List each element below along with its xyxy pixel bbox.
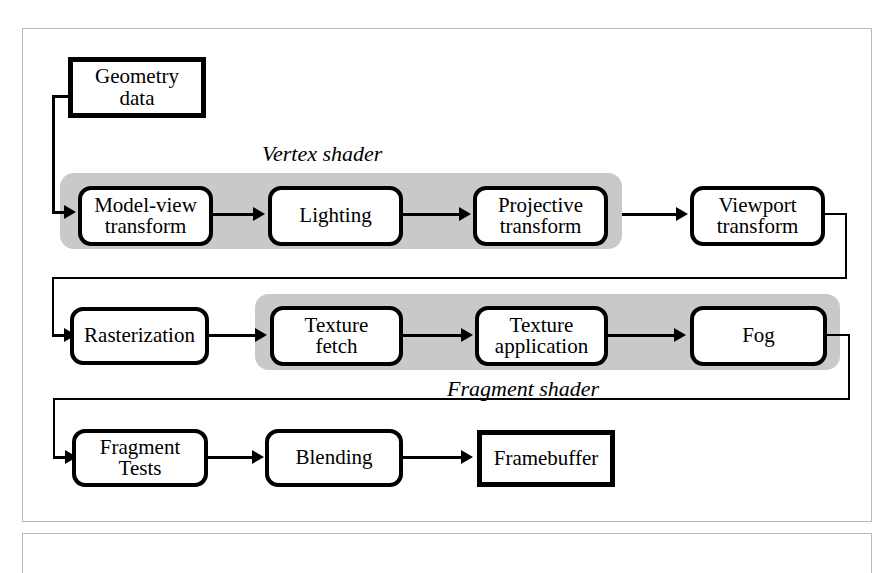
node-lighting[interactable]: Lighting <box>268 186 403 246</box>
node-viewport-transform[interactable]: Viewport transform <box>690 186 825 246</box>
node-projective-transform-line1: Projective <box>498 193 583 217</box>
connector-viewport-to-raster-h2 <box>52 277 847 279</box>
node-geometry-data[interactable]: Geometry data <box>68 57 206 118</box>
node-texture-fetch-line2: fetch <box>316 334 358 358</box>
node-framebuffer-label: Framebuffer <box>491 448 602 469</box>
connector-viewport-to-raster-v1 <box>845 213 847 279</box>
arrowhead-into-texture-fetch <box>255 328 267 342</box>
node-model-view-transform-line2: transform <box>105 214 187 238</box>
node-fragment-tests-line1: Fragment <box>100 435 180 459</box>
node-texture-fetch-line1: Texture <box>305 313 369 337</box>
connector-raster-to-texture-fetch <box>209 334 259 337</box>
node-texture-fetch[interactable]: Texture fetch <box>270 306 403 366</box>
connector-texture-application-to-fog <box>608 334 678 337</box>
vertex-shader-caption: Vertex shader <box>262 141 382 167</box>
node-framebuffer[interactable]: Framebuffer <box>477 430 615 487</box>
arrowhead-into-blending <box>252 450 264 464</box>
node-texture-application-line2: application <box>495 334 588 358</box>
node-rasterization-label: Rasterization <box>81 325 198 346</box>
node-blending-label: Blending <box>293 447 376 468</box>
node-model-view-transform-line1: Model-view <box>94 193 197 217</box>
node-blending[interactable]: Blending <box>265 429 403 487</box>
connector-fog-to-fragment-tests-h1 <box>827 334 850 336</box>
connector-fog-to-fragment-tests-h2 <box>53 398 850 400</box>
arrowhead-into-framebuffer <box>461 450 473 464</box>
connector-texture-fetch-to-application <box>403 334 465 337</box>
connector-modelview-to-lighting <box>213 213 257 216</box>
node-fog[interactable]: Fog <box>690 306 827 366</box>
node-fog-label: Fog <box>739 325 778 346</box>
node-rasterization[interactable]: Rasterization <box>70 307 209 365</box>
node-texture-application-line1: Texture <box>510 313 574 337</box>
connector-fog-to-fragment-tests-v2 <box>53 398 55 458</box>
node-fragment-tests-line2: Tests <box>119 456 162 480</box>
connector-fragment-tests-to-blending <box>208 456 256 459</box>
connector-viewport-to-raster-h1 <box>825 213 847 215</box>
node-lighting-label: Lighting <box>296 205 374 226</box>
lower-content-frame <box>22 533 872 573</box>
node-projective-transform-line2: transform <box>500 214 582 238</box>
arrowhead-into-lighting <box>253 207 265 221</box>
arrowhead-into-texture-application <box>461 328 473 342</box>
arrowhead-into-projective <box>459 207 471 221</box>
arrowhead-into-modelview <box>64 205 76 219</box>
node-fragment-tests[interactable]: Fragment Tests <box>72 429 208 487</box>
node-geometry-data-line1: Geometry <box>95 64 179 88</box>
connector-blending-to-framebuffer <box>403 456 465 459</box>
node-viewport-transform-line1: Viewport <box>718 193 796 217</box>
arrowhead-into-fog <box>674 328 686 342</box>
node-texture-application[interactable]: Texture application <box>475 306 608 366</box>
node-projective-transform[interactable]: Projective transform <box>473 186 608 246</box>
connector-fog-to-fragment-tests-v1 <box>848 334 850 400</box>
arrowhead-into-viewport <box>676 207 688 221</box>
connector-viewport-to-raster-v2 <box>52 277 54 337</box>
connector-projective-to-viewport <box>622 213 680 216</box>
node-viewport-transform-line2: transform <box>717 214 799 238</box>
connector-lighting-to-projective <box>403 213 463 216</box>
node-geometry-data-line2: data <box>120 86 155 110</box>
connector-geometry-to-modelview-v <box>52 95 55 213</box>
node-model-view-transform[interactable]: Model-view transform <box>78 186 213 246</box>
